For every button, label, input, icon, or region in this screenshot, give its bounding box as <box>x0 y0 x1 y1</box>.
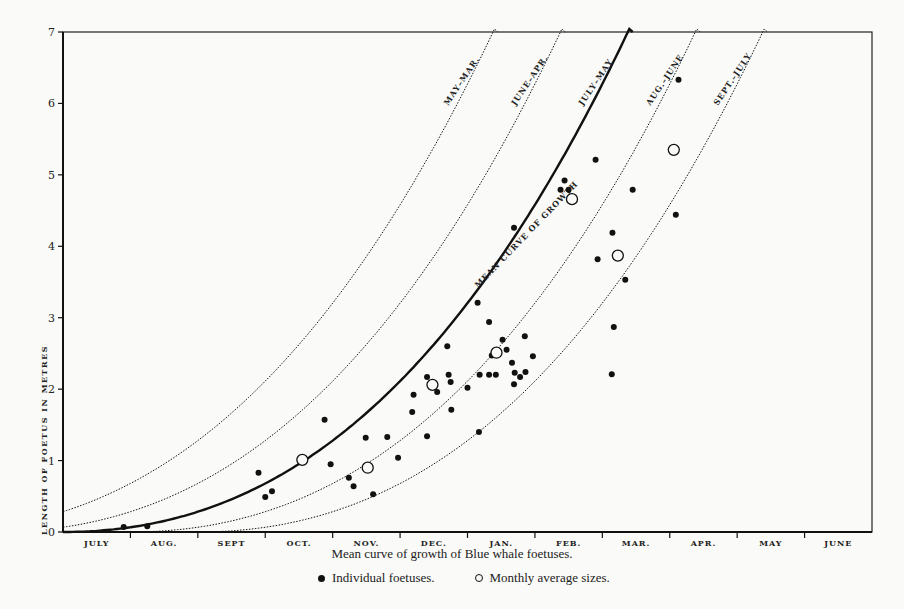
open-circle-icon <box>475 574 483 582</box>
individual-foetus-point <box>476 429 482 435</box>
individual-foetus-point <box>384 434 390 440</box>
individual-foetus-point <box>475 300 481 306</box>
y-axis-label: LENGTH OF FOETUS IN METRES <box>39 345 49 535</box>
individual-foetus-point <box>522 333 528 339</box>
y-tick-label: 7 <box>48 26 55 39</box>
monthly-average-point <box>362 462 373 473</box>
y-tick-label: 5 <box>48 169 55 182</box>
individual-foetus-point <box>530 353 536 359</box>
legend-average: Monthly average sizes. <box>490 570 610 586</box>
monthly-average-point <box>668 144 679 155</box>
individual-foetus-point <box>486 372 492 378</box>
individual-foetus-point <box>269 488 275 494</box>
individual-foetus-point <box>395 455 401 461</box>
individual-foetus-point <box>370 491 376 497</box>
individual-foetus-point <box>424 374 430 380</box>
individual-foetus-point <box>566 187 572 193</box>
individual-foetus-point <box>448 379 454 385</box>
plot-frame <box>63 32 872 532</box>
chart-caption: Mean curve of growth of Blue whale foetu… <box>0 546 904 562</box>
individual-foetus-point <box>409 409 415 415</box>
individual-foetus-point <box>558 187 564 193</box>
individual-foetus-point <box>477 372 483 378</box>
monthly-average-point <box>427 379 438 390</box>
individual-foetus-point <box>446 372 452 378</box>
individual-foetus-point <box>504 347 510 353</box>
y-tick-label: 4 <box>48 240 55 253</box>
y-tick-label: 0 <box>48 526 55 539</box>
individual-foetus-point <box>517 374 523 380</box>
monthly-average-point <box>566 194 577 205</box>
individual-foetus-point <box>486 319 492 325</box>
mean-growth-curve <box>63 29 633 532</box>
monthly-average-point <box>491 347 502 358</box>
individual-foetus-point <box>465 385 471 391</box>
growth-chart: MAY–MAR.JUNE–APR.JULY–MAYMEAN CURVE OF G… <box>0 0 904 560</box>
data-points <box>121 77 682 530</box>
individual-foetus-point <box>256 470 262 476</box>
legend-individual: Individual foetuses. <box>332 570 435 586</box>
conception-curve <box>63 29 768 532</box>
individual-foetus-point <box>609 230 615 236</box>
individual-foetus-point <box>562 178 568 184</box>
individual-foetus-point <box>611 324 617 330</box>
conception-curve <box>63 29 498 512</box>
legend: Individual foetuses. Monthly average siz… <box>318 570 610 586</box>
individual-foetus-point <box>511 381 517 387</box>
individual-foetus-point <box>522 369 528 375</box>
curve-label: MAY–MAR. <box>441 54 481 107</box>
individual-foetus-point <box>328 461 334 467</box>
individual-foetus-point <box>444 343 450 349</box>
individual-foetus-point <box>448 407 454 413</box>
individual-foetus-point <box>593 157 599 163</box>
individual-foetus-point <box>673 212 679 218</box>
curve-label: JUNE–APR. <box>508 53 550 108</box>
individual-foetus-point <box>121 524 127 530</box>
individual-foetus-point <box>262 494 268 500</box>
filled-circle-icon <box>318 575 325 582</box>
conception-curve <box>63 29 700 532</box>
growth-curves: MAY–MAR.JUNE–APR.JULY–MAYMEAN CURVE OF G… <box>63 29 768 532</box>
mean-curve-annotation: MEAN CURVE OF GROWTH <box>472 179 580 290</box>
individual-foetus-point <box>411 392 417 398</box>
y-tick-label: 1 <box>48 455 55 468</box>
individual-foetus-point <box>511 225 517 231</box>
monthly-average-point <box>612 250 623 261</box>
individual-foetus-point <box>493 372 499 378</box>
curve-label: SEPT.–JULY <box>711 51 754 107</box>
individual-foetus-point <box>622 277 628 283</box>
individual-foetus-point <box>630 187 636 193</box>
individual-foetus-point <box>512 370 518 376</box>
individual-foetus-point <box>500 337 506 343</box>
monthly-average-point <box>297 454 308 465</box>
y-tick-label: 3 <box>48 312 55 325</box>
y-tick-label: 6 <box>48 97 55 110</box>
individual-foetus-point <box>346 475 352 481</box>
individual-foetus-point <box>363 435 369 441</box>
individual-foetus-point <box>424 433 430 439</box>
individual-foetus-point <box>509 360 515 366</box>
individual-foetus-point <box>144 523 150 529</box>
plot-border <box>63 32 872 532</box>
y-tick-label: 2 <box>48 383 55 396</box>
individual-foetus-point <box>351 483 357 489</box>
individual-foetus-point <box>676 77 682 83</box>
individual-foetus-point <box>609 371 615 377</box>
individual-foetus-point <box>595 256 601 262</box>
individual-foetus-point <box>322 417 328 423</box>
